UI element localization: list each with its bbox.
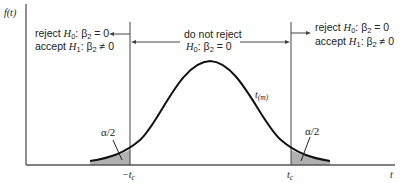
right-region-arrowhead — [306, 31, 311, 35]
y-axis-label: f(t) — [4, 6, 16, 19]
left-region-accept-text: accept H1: β2 ≠ 0 — [35, 40, 114, 53]
x-axis-label: t — [390, 168, 393, 181]
middle-region-text-2: H0: β2 = 0 — [186, 40, 232, 53]
right-tail-alpha-label: α/2 — [305, 125, 319, 138]
left-tail-alpha-label: α/2 — [101, 126, 115, 139]
middle-arrowhead-left — [131, 40, 136, 44]
right-region-reject-text: reject H0: β2 = 0 — [315, 21, 389, 34]
left-region-arrowhead — [109, 32, 114, 36]
left-region-reject-text: reject H0: β2 = 0 — [35, 27, 109, 40]
right-critical-label: tc — [287, 168, 293, 181]
t-distribution-curve — [90, 61, 330, 161]
t-distribution-rejection-diagram: f(t) reject H0: β2 = 0 accept H1: β2 ≠ 0… — [0, 0, 403, 183]
curve-label: t(m) — [255, 88, 268, 101]
middle-arrowhead-right — [285, 40, 290, 44]
right-region-accept-text: accept H1: β2 ≠ 0 — [315, 35, 394, 48]
left-critical-label: −tc — [122, 168, 135, 181]
